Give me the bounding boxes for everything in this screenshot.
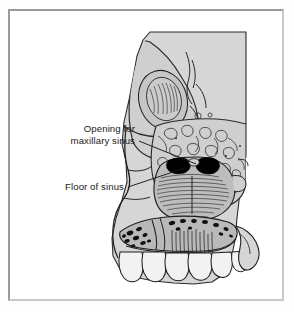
- sinus-ostium-right: [196, 158, 219, 174]
- label-opening-line1: Opening for: [84, 123, 136, 134]
- maxillary-tuberosity: [236, 226, 259, 270]
- label-opening-line2: maxillary sinus: [71, 135, 136, 146]
- figure-root: Opening for maxillary sinus Floor of sin…: [0, 0, 294, 312]
- anatomical-illustration: Opening for maxillary sinus Floor of sin…: [0, 0, 294, 312]
- label-floor-of-sinus: Floor of sinus: [65, 181, 124, 192]
- label-floor-line1: Floor of sinus: [65, 181, 124, 192]
- label-opening-for-maxillary-sinus: Opening for maxillary sinus: [71, 123, 136, 146]
- maxillary-teeth: [119, 251, 248, 282]
